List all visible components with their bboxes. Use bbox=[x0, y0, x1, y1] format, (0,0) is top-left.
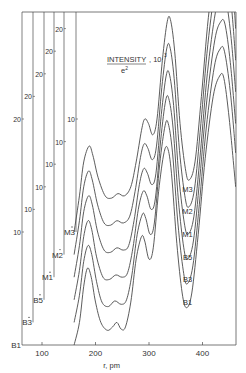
base-marker-dot bbox=[71, 226, 72, 227]
offset-axis-tick-label: 20 bbox=[13, 116, 21, 123]
curve-m3 bbox=[74, 0, 236, 232]
offset-axis-base-label: M2 bbox=[52, 251, 64, 260]
offset-axis-tick-label: 10 bbox=[24, 206, 32, 213]
offset-axis-tick-label: 20 bbox=[35, 71, 43, 78]
title-unit: , 10 bbox=[149, 55, 162, 64]
curve-label-b5: B5 bbox=[183, 253, 192, 262]
x-tick-label: 100 bbox=[35, 349, 49, 358]
offset-y-axes: 1020B11020B31020B51020M11020M210M3 bbox=[11, 12, 78, 350]
curve-b3 bbox=[74, 46, 236, 322]
chart-title: INTENSITY , 10 3 e2 bbox=[107, 52, 167, 75]
title-denominator-exp: 2 bbox=[125, 65, 128, 71]
curve-label-m1: M1 bbox=[182, 230, 192, 239]
title-unit-exp: 3 bbox=[164, 52, 167, 58]
title-numerator: INTENSITY bbox=[107, 55, 146, 64]
offset-axis-tick-label: 10 bbox=[67, 116, 75, 123]
x-axis: 100200300400r, pm bbox=[35, 342, 209, 370]
offset-axis-tick-label: 10 bbox=[55, 139, 63, 146]
offset-axis-base-label: B5 bbox=[33, 296, 43, 305]
offset-axis-base-label: M1 bbox=[42, 273, 54, 282]
offset-axis-tick-label: 10 bbox=[35, 184, 43, 191]
offset-axis-base-label: B1 bbox=[11, 341, 21, 350]
base-marker-dot bbox=[49, 272, 50, 273]
base-marker-dot bbox=[59, 249, 60, 250]
base-marker-dot bbox=[39, 294, 40, 295]
curve-b1 bbox=[74, 73, 236, 345]
offset-axis-tick-label: 20 bbox=[55, 26, 63, 33]
base-marker-dot bbox=[28, 317, 29, 318]
offset-axis-base-label: B3 bbox=[22, 318, 32, 327]
offset-axis-tick-label: 10 bbox=[13, 229, 21, 236]
intensity-curves bbox=[74, 0, 236, 345]
offset-axis-base-label: M3 bbox=[64, 228, 76, 237]
curve-label-m2: M2 bbox=[182, 207, 192, 216]
curve-label-m3: M3 bbox=[182, 185, 192, 194]
offset-axis-tick-label: 10 bbox=[45, 161, 53, 168]
x-tick-label: 400 bbox=[196, 349, 210, 358]
x-tick-label: 200 bbox=[89, 349, 103, 358]
offset-axis-tick-label: 20 bbox=[45, 48, 53, 55]
curve-label-b3: B3 bbox=[183, 275, 192, 284]
curve-label-b1: B1 bbox=[183, 298, 192, 307]
x-tick-label: 300 bbox=[142, 349, 156, 358]
intensity-chart: 1020B11020B31020B51020M11020M210M3 10020… bbox=[0, 0, 246, 373]
offset-axis-tick-label: 20 bbox=[24, 93, 32, 100]
x-axis-label: r, pm bbox=[103, 361, 120, 370]
title-denominator: e2 bbox=[121, 65, 128, 75]
